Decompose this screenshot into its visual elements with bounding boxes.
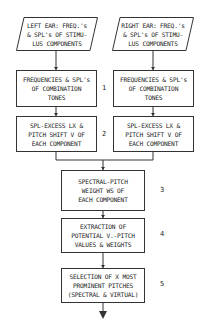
left-ear-line-1: LEFT EAR: FREQ.'s bbox=[27, 21, 87, 30]
step3-number: 3 bbox=[160, 186, 164, 194]
step2-number: 2 bbox=[102, 130, 106, 138]
step1-right-line-3: TONES bbox=[145, 93, 163, 102]
left-ear-line-3: LUS COMPONENTS bbox=[32, 39, 81, 48]
step1-left-box: FREQUENCIES & SPL's OF COMBINATION TONES bbox=[16, 70, 97, 107]
step5-number: 5 bbox=[160, 280, 164, 288]
step2-left-line-1: SPL-EXCESS LX & bbox=[30, 121, 83, 130]
step1-right-box: FREQUENCIES & SPL's OF COMBINATION TONES bbox=[113, 70, 194, 107]
left-ear-input: LEFT EAR: FREQ.'s & SPL's OF STIMU- LUS … bbox=[16, 17, 98, 51]
step4-number: 4 bbox=[160, 230, 164, 238]
step5-box: SELECTION OF X MOST PROMINENT PITCHES (S… bbox=[61, 268, 145, 303]
step2-left-line-2: PITCH SHIFT V OF bbox=[28, 130, 84, 139]
step1-left-line-3: TONES bbox=[48, 93, 66, 102]
step4-box: EXTRACTION OF POTENTIAL V.-PITCH VALUES … bbox=[61, 218, 145, 253]
step2-left-line-3: EACH COMPONENT bbox=[32, 139, 81, 148]
left-ear-line-2: & SPL's OF STIMU- bbox=[27, 30, 87, 39]
step2-right-line-1: SPL-EXCESS LX & bbox=[127, 121, 180, 130]
step4-line-1: EXTRACTION OF bbox=[80, 222, 126, 231]
step1-left-line-1: FREQUENCIES & SPL's bbox=[23, 75, 90, 84]
step3-line-3: EACH COMPONENT bbox=[78, 195, 127, 204]
step4-line-2: POTENTIAL V.-PITCH bbox=[71, 231, 134, 240]
right-ear-line-2: & SPL's OF STIMU- bbox=[123, 30, 183, 39]
step5-line-1: SELECTION OF X MOST bbox=[70, 272, 137, 281]
right-ear-line-1: RIGHT EAR: FREQ.'s bbox=[121, 21, 184, 30]
step2-right-box: SPL-EXCESS LX & PITCH SHIFT V OF EACH CO… bbox=[113, 116, 194, 152]
step2-right-line-3: EACH COMPONENT bbox=[129, 139, 178, 148]
step1-right-line-1: FREQUENCIES & SPL's bbox=[120, 75, 187, 84]
step2-right-line-2: PITCH SHIFT V OF bbox=[125, 130, 181, 139]
step3-line-1: SPECTRAL-PITCH bbox=[78, 177, 127, 186]
step1-right-line-2: OF COMBINATION bbox=[129, 84, 178, 93]
step3-line-2: WEIGHT WS OF bbox=[82, 186, 124, 195]
right-ear-input: RIGHT EAR: FREQ.'s & SPL's OF STIMU- LUS… bbox=[112, 17, 194, 51]
step1-number: 1 bbox=[102, 84, 106, 92]
output-arrow-icon bbox=[99, 311, 107, 319]
step1-left-line-2: OF COMBINATION bbox=[32, 84, 81, 93]
step5-line-2: PROMINENT PITCHES bbox=[73, 281, 133, 290]
right-ear-line-3: LUS COMPONENTS bbox=[128, 39, 177, 48]
step5-line-3: (SPECTRAL & VIRTUAL) bbox=[68, 290, 139, 299]
step2-left-box: SPL-EXCESS LX & PITCH SHIFT V OF EACH CO… bbox=[16, 116, 97, 152]
step4-line-3: VALUES & WEIGHTS bbox=[75, 240, 131, 249]
step3-box: SPECTRAL-PITCH WEIGHT WS OF EACH COMPONE… bbox=[61, 170, 145, 211]
